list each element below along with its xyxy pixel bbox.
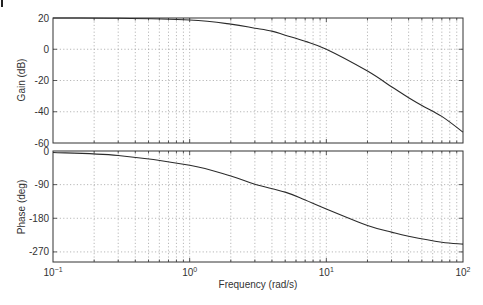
x-tick-label: 100 — [182, 266, 197, 278]
phase-axis-label: Phase (deg) — [16, 180, 27, 234]
frequency-axis-label: Frequency (rad/s) — [219, 279, 298, 290]
gain-axes: 200-20-40-60 — [35, 13, 463, 149]
y-tick-label: -20 — [35, 75, 50, 86]
x-tick-label: 10−1 — [43, 266, 62, 278]
y-tick-label: -90 — [35, 179, 50, 190]
y-tick-label: 20 — [38, 13, 50, 24]
gain-axis-label: Gain (dB) — [16, 59, 27, 102]
y-tick-label: 0 — [43, 146, 49, 157]
bode-plot: 200-20-40-60 0-90-180-270 Gain (dB) Phas… — [0, 0, 483, 305]
axes-frame — [53, 151, 463, 262]
phase-curve — [53, 153, 463, 245]
y-tick-label: 0 — [43, 44, 49, 55]
phase-axes: 0-90-180-270 — [29, 146, 463, 263]
x-tick-label: 102 — [455, 266, 470, 278]
gain-curve — [53, 18, 463, 132]
y-tick-label: -180 — [29, 213, 49, 224]
y-tick-label: -270 — [29, 246, 49, 257]
y-tick-label: -40 — [35, 106, 50, 117]
x-tick-labels: 10−1100101102 — [43, 266, 470, 278]
x-tick-label: 101 — [319, 266, 334, 278]
